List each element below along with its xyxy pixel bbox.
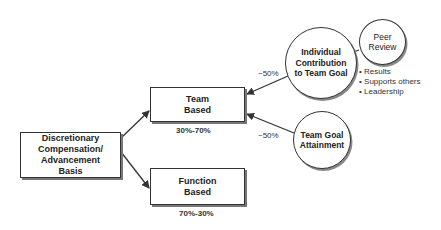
attainment-line-1: Team Goal: [300, 130, 344, 141]
individual-line-2: Contribution: [294, 58, 347, 69]
individual-line-3: to Team Goal: [294, 68, 347, 79]
criteria-label: Results: [364, 67, 391, 76]
bullet-icon: •: [359, 87, 362, 96]
attainment-weight: ~50%: [258, 131, 279, 140]
team-based-share: 30%-70%: [176, 126, 211, 135]
peer-review-criteria-list: • Results • Supports others • Leadership: [359, 67, 421, 97]
root-line-2: Compensation/: [38, 144, 103, 155]
bullet-icon: •: [359, 67, 362, 76]
attainment-line-2: Attainment: [300, 140, 344, 151]
criteria-label: Leadership: [364, 87, 404, 96]
function-based-share: 70%-30%: [179, 209, 214, 218]
criteria-item-leadership: • Leadership: [359, 87, 421, 97]
individual-weight: ~50%: [258, 69, 279, 78]
criteria-item-supports-others: • Supports others: [359, 77, 421, 87]
team-based-line-2: Based: [184, 105, 211, 116]
team-based-box: Team Based: [150, 87, 245, 122]
peer-review-line-1: Peer: [369, 32, 397, 43]
root-box-discretionary-compensation: Discretionary Compensation/ Advancement …: [20, 132, 121, 178]
individual-line-1: Individual: [294, 47, 347, 58]
function-based-line-1: Function: [179, 176, 217, 187]
arrow-root-to-function: [121, 152, 149, 188]
function-based-line-2: Based: [179, 187, 217, 198]
arrow-root-to-team: [121, 111, 149, 138]
criteria-label: Supports others: [364, 77, 420, 86]
root-line-1: Discretionary: [38, 133, 103, 144]
criteria-item-results: • Results: [359, 67, 421, 77]
bullet-icon: •: [359, 77, 362, 86]
team-based-line-1: Team: [184, 94, 211, 105]
peer-review-line-2: Review: [369, 42, 397, 53]
peer-review-circle: Peer Review: [359, 19, 406, 65]
function-based-box: Function Based: [150, 168, 245, 205]
team-goal-attainment-circle: Team Goal Attainment: [293, 111, 351, 169]
individual-contribution-circle: Individual Contribution to Team Goal: [285, 27, 357, 99]
arrow-individual-to-team: [247, 76, 288, 94]
root-line-3: Advancement: [38, 155, 103, 166]
root-line-4: Basis: [38, 166, 103, 177]
